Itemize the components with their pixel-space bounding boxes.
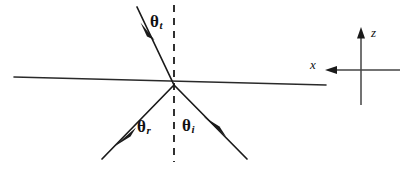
- z-axis-label: z: [371, 26, 376, 39]
- theta-t-label: θt: [150, 13, 162, 31]
- theta-r-symbol: θ: [137, 117, 146, 136]
- theta-t-subscript: t: [159, 19, 163, 31]
- x-axis-arrowhead: [325, 66, 337, 74]
- z-axis-arrowhead: [357, 27, 365, 39]
- theta-r-subscript: r: [146, 124, 151, 136]
- incident-ray-arrowhead: [204, 117, 227, 137]
- x-axis-label: x: [310, 58, 316, 71]
- theta-i-symbol: θ: [182, 116, 191, 135]
- theta-r-label: θr: [137, 118, 151, 136]
- diagram-canvas: [0, 0, 408, 171]
- theta-t-symbol: θ: [150, 12, 159, 31]
- optics-refraction-diagram: θt θr θi z x: [0, 0, 408, 171]
- theta-i-subscript: i: [191, 123, 195, 135]
- theta-i-label: θi: [182, 117, 194, 135]
